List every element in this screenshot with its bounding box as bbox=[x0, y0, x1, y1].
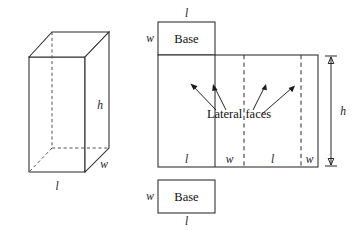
net-panel-label-3: w bbox=[306, 153, 314, 165]
net-top-base-top-edge-label: l bbox=[185, 7, 188, 19]
net-height-label: h bbox=[340, 105, 346, 117]
net-height-dimension: h bbox=[325, 56, 346, 166]
net-top-base-left-edge-label: w bbox=[146, 32, 154, 44]
prism-width-label: w bbox=[100, 158, 108, 170]
net-bottom-base-left-edge-label: w bbox=[146, 190, 154, 202]
net-top-base-label: Base bbox=[174, 32, 199, 46]
net-bottom-base-bottom-edge-label: l bbox=[185, 215, 188, 227]
net-panel-label-0: l bbox=[185, 153, 188, 165]
prism-length-label: l bbox=[55, 180, 58, 192]
net-panel-label-1: w bbox=[226, 153, 234, 165]
prism-front-face bbox=[29, 57, 85, 172]
net-diagram: Base l w Base l w l w l w bbox=[146, 7, 346, 227]
net-panel-label-2: l bbox=[271, 153, 274, 165]
prism-diagram: h l w bbox=[29, 32, 109, 192]
figure-rectangular-prism-net: h l w Base l w Base l w l w bbox=[0, 0, 357, 230]
figure-canvas: h l w Base l w Base l w l w bbox=[0, 0, 357, 230]
net-lateral-faces-label: Lateral faces bbox=[207, 107, 271, 121]
prism-height-label: h bbox=[97, 99, 103, 111]
net-bottom-base-label: Base bbox=[174, 190, 199, 204]
